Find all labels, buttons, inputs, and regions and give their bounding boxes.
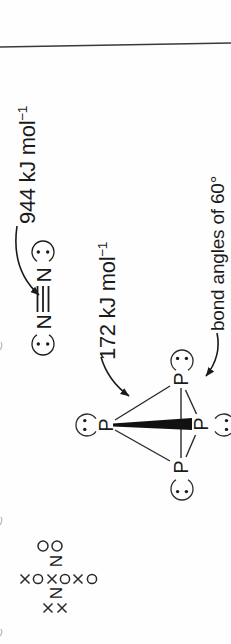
electron-dot <box>37 342 40 345</box>
n2-molecule-graphics <box>32 241 54 355</box>
bond-left-front <box>186 435 196 457</box>
p4-bond-energy-value: 172 kJ mol <box>95 257 120 360</box>
bond-right-front <box>186 390 197 414</box>
bond-angle-annotation-arrow <box>206 333 218 376</box>
triple-bond <box>38 286 49 312</box>
n2-left-atom: N <box>33 314 54 329</box>
edge-artifact-marks <box>0 342 2 636</box>
p4-bond-energy-exponent: −1 <box>95 242 110 257</box>
n2-right-lone-pair-circle <box>32 241 54 261</box>
p4-right-atom: P <box>171 372 191 385</box>
dot-cross-diagram-graphics <box>21 541 97 613</box>
electron-dot <box>225 419 228 422</box>
bond-apex-left <box>115 430 170 461</box>
figure-canvas: 944 kJ mol−1 172 kJ mol−1 bond angles of… <box>0 0 231 644</box>
left-lone-pair-circle <box>171 480 193 500</box>
cross-electron <box>74 575 83 584</box>
circle-electron <box>87 574 96 583</box>
electron-dot <box>46 342 49 345</box>
p4-left-atom: P <box>171 460 191 473</box>
electron-dot <box>37 250 40 253</box>
wedge-bond <box>113 418 192 430</box>
n2-bond-energy-value: 944 kJ mol <box>15 121 40 224</box>
scanned-figure: 944 kJ mol−1 172 kJ mol−1 bond angles of… <box>0 0 231 644</box>
p4-front-atom: P <box>191 417 211 430</box>
electron-dot <box>46 250 49 253</box>
shared-electron-column <box>21 574 97 583</box>
electron-dot <box>225 428 228 431</box>
electron-dot <box>83 428 86 431</box>
n2-left-lone-pair-circle <box>32 335 54 355</box>
circle-electron <box>60 574 69 583</box>
p4-energy-annotation-arrow <box>101 357 129 396</box>
p4-apex-atom: P <box>96 418 116 431</box>
cross-electron <box>44 604 67 613</box>
n2-right-atom: N <box>33 267 54 282</box>
dot-cross-left-atom: N <box>48 587 65 599</box>
n2-bond-energy-label: 944 kJ mol−1 <box>16 106 39 224</box>
electron-dot <box>176 357 179 360</box>
p4-bond-energy-label: 172 kJ mol−1 <box>96 242 119 360</box>
electron-dot <box>176 490 179 493</box>
right-lone-pair-circle <box>171 350 193 370</box>
page-rule-line <box>0 43 231 47</box>
cross-electron <box>21 575 30 584</box>
electron-dot <box>185 490 188 493</box>
bond-angle-label: bond angles of 60° <box>208 176 227 331</box>
electron-dot <box>185 357 188 360</box>
dot-cross-right-atom: N <box>48 555 65 567</box>
n2-bond-energy-exponent: −1 <box>15 106 30 121</box>
apex-lone-pair-circle <box>76 414 96 436</box>
cross-electron <box>48 575 57 584</box>
circle-electron-pair <box>38 541 62 551</box>
front-lone-pair-circle <box>215 414 231 436</box>
electron-dot <box>83 419 86 422</box>
circle-electron <box>33 574 42 583</box>
